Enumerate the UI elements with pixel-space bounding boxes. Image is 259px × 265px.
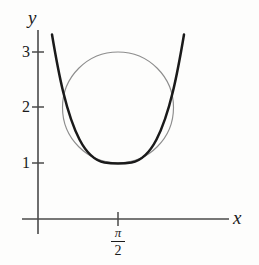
- y-tick-label-1: 1: [16, 155, 30, 171]
- osculating-circle: [63, 52, 174, 163]
- fraction-denominator: 2: [104, 243, 132, 258]
- y-tick-label-3: 3: [16, 44, 30, 60]
- figure-canvas: y x 3 2 1 π 2: [0, 0, 259, 265]
- x-tick-label-pi-over-2: π 2: [104, 226, 132, 258]
- y-tick-label-2: 2: [16, 99, 30, 115]
- fraction-bar: [111, 241, 125, 242]
- y-axis-label: y: [28, 8, 36, 27]
- x-axis-label: x: [233, 208, 241, 227]
- fraction-numerator: π: [104, 226, 132, 240]
- cosecant-curve: [52, 35, 184, 164]
